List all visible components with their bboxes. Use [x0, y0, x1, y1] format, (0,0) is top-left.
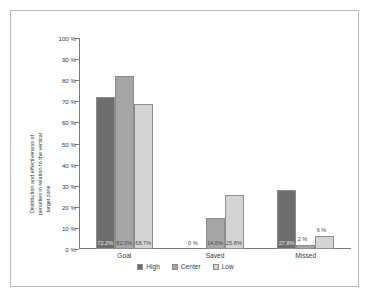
- bar-label-missed-center: 2 %: [298, 236, 308, 242]
- chart-legend: HighCenterLow: [11, 263, 360, 270]
- plot-area: 0 %10 %20 %30 %40 %50 %60 %70 %80 %90 %1…: [79, 38, 351, 249]
- legend-swatch-low: [213, 264, 219, 270]
- y-tick-label: 10 %: [62, 224, 76, 231]
- legend-item-low[interactable]: Low: [213, 263, 234, 270]
- bar-label-missed-low: 6 %: [317, 227, 327, 233]
- y-tick-label: 60 %: [62, 119, 76, 126]
- y-tick-label: 100 %: [58, 35, 76, 42]
- bar-label-saved-low: 25.8%: [226, 240, 242, 246]
- y-tick-label: 70 %: [62, 98, 76, 105]
- x-axis-label-missed: Missed: [295, 252, 316, 259]
- bar-label-goal-low: 68.7%: [135, 240, 151, 246]
- chart-frame: Distribution and effectiveness of penalt…: [10, 10, 359, 287]
- bar-label-goal-center: 82.0%: [116, 240, 132, 246]
- bar-goal-high[interactable]: [96, 97, 115, 249]
- y-tick-label: 0 %: [65, 246, 76, 253]
- x-axis-label-saved: Saved: [206, 252, 225, 259]
- legend-label-high: High: [146, 263, 160, 270]
- bar-label-saved-high: 0 %: [188, 240, 198, 246]
- y-tick-label: 80 %: [62, 77, 76, 84]
- legend-item-center[interactable]: Center: [172, 263, 201, 270]
- legend-swatch-center: [172, 264, 178, 270]
- legend-swatch-high: [137, 264, 143, 270]
- bar-goal-low[interactable]: [134, 104, 153, 249]
- y-tick-label: 40 %: [62, 161, 76, 168]
- y-tick-label: 50 %: [62, 140, 76, 147]
- y-axis-title-line-3: target zone: [44, 169, 53, 229]
- legend-label-center: Center: [181, 263, 201, 270]
- bar-label-saved-center: 14.6%: [207, 240, 223, 246]
- y-tick-label: 20 %: [62, 203, 76, 210]
- y-tick-label: 90 %: [62, 56, 76, 63]
- bar-label-goal-high: 72.2%: [97, 240, 113, 246]
- y-axis-line: [79, 38, 80, 249]
- legend-item-high[interactable]: High: [137, 263, 160, 270]
- y-tick-label: 30 %: [62, 182, 76, 189]
- bar-goal-center[interactable]: [115, 76, 134, 249]
- x-axis-label-goal: Goal: [117, 252, 131, 259]
- legend-label-low: Low: [222, 263, 234, 270]
- bar-label-missed-high: 27.8%: [279, 240, 295, 246]
- chart-figure: Distribution and effectiveness of penalt…: [0, 0, 370, 298]
- bar-missed-low[interactable]: [315, 236, 334, 249]
- bar-missed-center[interactable]: [296, 245, 315, 249]
